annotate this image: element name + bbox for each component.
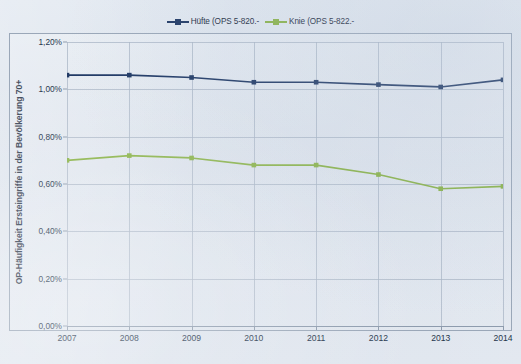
x-axis-tick-label: 2009 [182,326,201,343]
series-line [67,75,503,87]
square-marker-icon [265,17,287,26]
data-point-marker [189,156,194,161]
data-point-marker [438,186,443,191]
data-point-marker [376,82,381,87]
data-point-marker [127,73,132,78]
data-point-marker [252,163,257,168]
chart-plot-frame: 0,00%0,20%0,40%0,60%0,80%1,00%1,20%20072… [9,33,512,331]
y-axis-tick-label: 1,20% [38,37,67,47]
data-point-marker [376,172,381,177]
scanned-page-background: Hüfte (OPS 5-820.- Knie (OPS 5-822.- OP-… [0,0,521,364]
x-axis-tick-label: 2010 [244,326,263,343]
data-point-marker [189,75,194,80]
legend-item-label: Hüfte (OPS 5-820.- [191,17,259,26]
series-line [67,156,503,189]
data-point-marker [314,80,319,85]
data-point-marker [127,153,132,158]
square-marker-icon [167,17,189,26]
series-knie [67,153,503,191]
data-point-marker [501,78,503,83]
y-axis-tick-label: 0,20% [38,274,67,284]
chart-series-layer [67,42,503,326]
data-point-marker [314,163,319,168]
x-axis-tick-label: 2014 [493,326,512,343]
x-axis-baseline [67,326,503,327]
data-point-marker [67,73,69,78]
legend-item-knie: Knie (OPS 5-822.- [262,17,357,26]
y-axis-tick-label: 0,60% [38,179,67,189]
legend-item-huefte: Hüfte (OPS 5-820.- [164,17,262,26]
y-axis-tick-label: 0,40% [38,226,67,236]
gridline-vertical [503,42,504,326]
x-axis-tick-label: 2013 [431,326,450,343]
series-huefte [67,73,503,89]
data-point-marker [252,80,257,85]
data-point-marker [67,158,69,163]
data-point-marker [438,85,443,90]
data-point-marker [501,184,503,189]
x-axis-tick-label: 2011 [307,326,325,343]
x-axis-tick-label: 2012 [369,326,388,343]
y-axis-tick-label: 1,00% [38,84,67,94]
chart-legend: Hüfte (OPS 5-820.- Knie (OPS 5-822.- [0,17,521,26]
x-axis-tick-label: 2008 [120,326,139,343]
legend-item-label: Knie (OPS 5-822.- [289,17,354,26]
x-axis-tick-label: 2007 [57,326,76,343]
y-axis-tick-label: 0,80% [38,132,67,142]
chart-plot-area: 0,00%0,20%0,40%0,60%0,80%1,00%1,20%20072… [67,42,503,326]
